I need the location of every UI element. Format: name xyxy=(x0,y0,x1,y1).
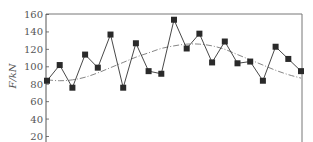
square-marker xyxy=(171,17,177,23)
square-marker xyxy=(235,60,241,66)
square-marker xyxy=(133,40,139,46)
square-marker xyxy=(82,52,88,58)
square-marker xyxy=(95,65,101,71)
square-marker xyxy=(209,59,215,65)
y-tick-label: 40 xyxy=(30,114,43,125)
y-tick-label: 160 xyxy=(24,9,43,20)
y-tick-label: 20 xyxy=(30,131,43,142)
y-tick-label: 60 xyxy=(30,96,43,107)
square-marker xyxy=(273,44,279,50)
square-marker xyxy=(222,39,228,45)
square-marker xyxy=(108,32,114,38)
square-marker xyxy=(57,62,63,68)
y-axis-ticks: 20406080100120140160 xyxy=(24,9,49,142)
square-marker xyxy=(69,85,75,91)
square-marker xyxy=(146,68,152,74)
square-marker xyxy=(196,31,202,37)
y-tick-label: 120 xyxy=(24,44,43,55)
square-marker xyxy=(298,68,304,74)
square-marker xyxy=(285,56,291,62)
square-marker xyxy=(44,78,50,84)
line-chart: 20406080100120140160 F/kN xyxy=(0,0,313,142)
y-tick-label: 80 xyxy=(30,79,43,90)
y-tick-label: 140 xyxy=(24,26,43,37)
square-marker xyxy=(184,45,190,51)
trend-curve xyxy=(47,44,301,81)
y-tick-label: 100 xyxy=(24,61,43,72)
square-marker xyxy=(260,78,266,84)
square-marker xyxy=(120,85,126,91)
square-marker xyxy=(158,71,164,77)
y-axis-title: F/kN xyxy=(7,62,18,89)
square-marker xyxy=(247,59,253,65)
data-markers xyxy=(44,17,304,91)
